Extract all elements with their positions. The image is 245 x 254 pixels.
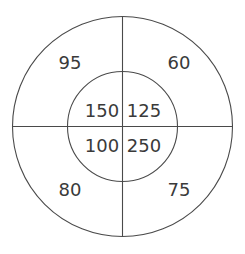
inner-label-bottom-left: 100 — [85, 135, 119, 156]
outer-label-top-left: 95 — [59, 52, 82, 73]
inner-label-top-left: 150 — [85, 100, 119, 121]
outer-label-bottom-right: 75 — [168, 179, 191, 200]
inner-label-top-right: 125 — [127, 100, 161, 121]
concentric-circles-diagram: 95 60 80 75 150 125 100 250 — [0, 0, 245, 254]
diagram-canvas: 95 60 80 75 150 125 100 250 — [0, 0, 245, 254]
inner-label-bottom-right: 250 — [127, 135, 161, 156]
outer-label-bottom-left: 80 — [59, 179, 82, 200]
outer-label-top-right: 60 — [168, 52, 191, 73]
